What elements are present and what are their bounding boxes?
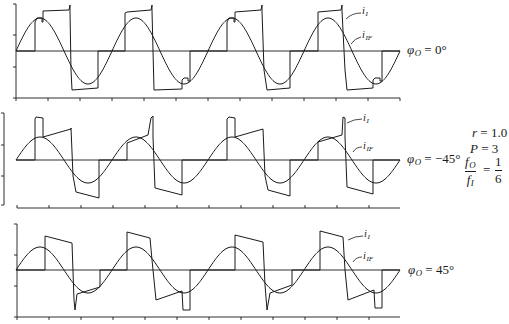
leader-iIF-panel2 (353, 147, 362, 152)
leader-iI-panel2 (347, 119, 362, 123)
panel-phi-minus-45 (1, 113, 400, 208)
panel-phi-45 (14, 224, 400, 320)
ratio-value: 1 6 (495, 155, 502, 186)
x-axis (16, 98, 400, 101)
y-axis (13, 4, 16, 98)
label-iI-panel3: iI (364, 229, 370, 240)
param-r: r = 1.0 (472, 126, 507, 139)
x-axis (17, 205, 400, 208)
label-iI-panel1: iI (362, 6, 368, 17)
phase-label-panel3: φO = 45° (408, 263, 454, 276)
leader-iI-panel3 (348, 236, 363, 240)
y-axis (1, 113, 4, 205)
phase-label-panel2: φO = −45° (407, 152, 460, 165)
label-iIF-panel1: iIF (362, 30, 372, 41)
label-leader-lines (346, 13, 363, 262)
waveform-iI (16, 231, 400, 310)
leader-iI-panel1 (346, 13, 361, 19)
ratio-fraction: fO fI (465, 155, 476, 188)
label-iIF-panel3: iIF (363, 251, 373, 262)
waveform-iI (16, 5, 400, 90)
param-frequency-ratio: fO fI = 1 6 (465, 155, 509, 187)
phase-label-panel1: φO = 0° (407, 43, 447, 56)
x-axis (17, 317, 400, 320)
leader-iIF-panel3 (353, 257, 362, 262)
label-iI-panel2: iI (363, 113, 369, 124)
label-iIF-panel2: iIF (363, 141, 373, 152)
leader-iIF-panel1 (351, 37, 361, 44)
ratio-equals: = (483, 163, 490, 176)
panel-phi-0 (13, 4, 400, 101)
waveform-iI (16, 116, 400, 198)
